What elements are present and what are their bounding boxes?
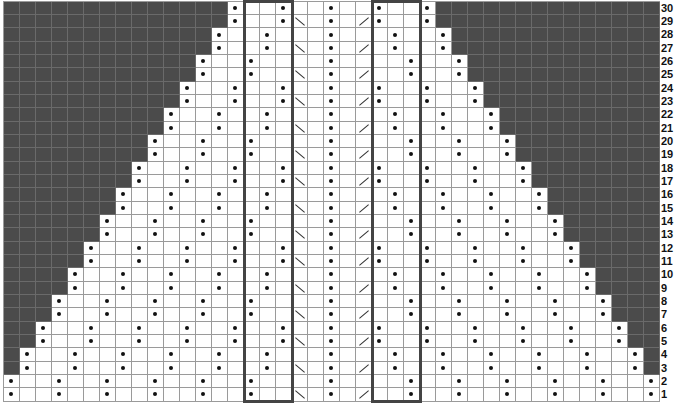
no-stitch-cell [564, 55, 580, 68]
chart-cell [116, 268, 132, 281]
purl-dot-icon [249, 312, 253, 316]
k2tog-decrease-icon [359, 204, 369, 212]
chart-cell [244, 228, 260, 241]
no-stitch-cell [164, 15, 180, 28]
no-stitch-cell [164, 95, 180, 108]
purl-dot-icon [153, 152, 157, 156]
no-stitch-cell [612, 2, 628, 15]
chart-cell [308, 295, 324, 308]
ssk-decrease-icon [295, 177, 305, 185]
no-stitch-cell [36, 202, 52, 215]
chart-cell [212, 202, 228, 215]
chart-cell [324, 375, 340, 388]
no-stitch-cell [564, 28, 580, 41]
chart-cell [372, 335, 388, 348]
chart-cell [36, 362, 52, 375]
chart-cell [244, 388, 260, 401]
no-stitch-cell [4, 148, 20, 161]
chart-cell [372, 322, 388, 335]
chart-cell [276, 15, 292, 28]
no-stitch-cell [36, 2, 52, 15]
chart-cell [372, 68, 388, 81]
no-stitch-cell [100, 15, 116, 28]
chart-cell [420, 55, 436, 68]
purl-dot-icon [73, 286, 77, 290]
no-stitch-cell [68, 215, 84, 228]
chart-cell [196, 202, 212, 215]
chart-cell [484, 228, 500, 241]
chart-cell [372, 42, 388, 55]
no-stitch-cell [84, 135, 100, 148]
chart-cell [276, 175, 292, 188]
chart-cell [308, 28, 324, 41]
purl-dot-icon [601, 312, 605, 316]
no-stitch-cell [84, 202, 100, 215]
chart-cell [260, 375, 276, 388]
chart-cell [100, 282, 116, 295]
k2tog-decrease-icon [359, 177, 369, 185]
chart-cell [308, 215, 324, 228]
no-stitch-cell [100, 122, 116, 135]
chart-cell [468, 348, 484, 361]
no-stitch-cell [20, 42, 36, 55]
no-stitch-cell [564, 15, 580, 28]
purl-dot-icon [409, 312, 413, 316]
purl-dot-icon [185, 86, 189, 90]
no-stitch-cell [20, 28, 36, 41]
chart-cell [324, 322, 340, 335]
row-number-label: 19 [661, 148, 673, 161]
no-stitch-cell [4, 2, 20, 15]
chart-cell [564, 282, 580, 295]
ssk-decrease-icon [295, 257, 305, 265]
chart-cell [100, 322, 116, 335]
purl-dot-icon [217, 272, 221, 276]
chart-cell [100, 215, 116, 228]
chart-cell [260, 68, 276, 81]
chart-cell [260, 215, 276, 228]
purl-dot-icon [377, 339, 381, 343]
no-stitch-cell [20, 335, 36, 348]
chart-cell [388, 375, 404, 388]
chart-cell [548, 242, 564, 255]
chart-cell [420, 348, 436, 361]
chart-cell [228, 162, 244, 175]
chart-cell [372, 175, 388, 188]
purl-dot-icon [377, 19, 381, 23]
no-stitch-cell [52, 28, 68, 41]
chart-cell [212, 255, 228, 268]
chart-cell [564, 388, 580, 401]
purl-dot-icon [169, 272, 173, 276]
chart-cell [116, 362, 132, 375]
chart-cell [132, 295, 148, 308]
chart-cell [164, 295, 180, 308]
chart-cell [148, 388, 164, 401]
chart-cell [244, 268, 260, 281]
chart-cell [452, 335, 468, 348]
chart-cell [164, 135, 180, 148]
purl-dot-icon [329, 206, 333, 210]
purl-dot-icon [489, 206, 493, 210]
purl-dot-icon [265, 272, 269, 276]
no-stitch-cell [516, 95, 532, 108]
chart-cell [36, 335, 52, 348]
chart-cell [436, 322, 452, 335]
k2tog-decrease-icon [359, 71, 369, 79]
purl-dot-icon [553, 312, 557, 316]
purl-dot-icon [233, 99, 237, 103]
purl-dot-icon [521, 326, 525, 330]
no-stitch-cell [644, 322, 660, 335]
purl-dot-icon [105, 379, 109, 383]
chart-cell [132, 175, 148, 188]
no-stitch-cell [36, 188, 52, 201]
chart-cell [228, 108, 244, 121]
chart-cell [244, 95, 260, 108]
chart-cell [340, 68, 356, 81]
no-stitch-cell [116, 135, 132, 148]
no-stitch-cell [644, 202, 660, 215]
no-stitch-cell [20, 162, 36, 175]
chart-cell [340, 388, 356, 401]
no-stitch-cell [564, 215, 580, 228]
chart-cell [548, 388, 564, 401]
purl-dot-icon [9, 379, 13, 383]
chart-cell [292, 255, 308, 268]
